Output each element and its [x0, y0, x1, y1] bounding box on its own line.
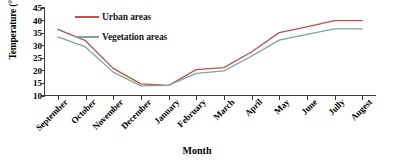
y-tick-label: 25: [18, 54, 42, 62]
y-tick-mark: [41, 70, 45, 71]
temperature-line-chart: Temperature (°C) 1015202530354045 Urban …: [0, 0, 394, 163]
y-tick-mark: [41, 45, 45, 46]
y-tick-mark: [41, 7, 45, 8]
x-tick-label: June: [299, 97, 319, 117]
y-tick-label: 45: [18, 4, 42, 12]
legend-label-vegetation-areas: Vegetation areas: [102, 32, 167, 42]
x-tick-label: March: [211, 97, 236, 122]
legend-item-urban-areas: Urban areas: [75, 7, 215, 27]
y-tick-label: 15: [18, 79, 42, 87]
x-tick-label: Augest: [349, 97, 374, 122]
x-tick-label: May: [272, 97, 291, 116]
y-tick-label: 20: [18, 67, 42, 75]
y-tick-label: 35: [18, 29, 42, 37]
x-tick-label: April: [242, 97, 263, 118]
y-tick-mark: [41, 83, 45, 84]
x-tick-label: February: [176, 97, 208, 129]
x-tick-label: September: [34, 97, 70, 133]
legend-label-urban-areas: Urban areas: [102, 12, 151, 22]
y-tick-label: 30: [18, 42, 42, 50]
y-tick-mark: [41, 33, 45, 34]
legend: Urban areas Vegetation areas: [75, 7, 215, 47]
y-axis-tick-labels: 1015202530354045: [18, 8, 42, 96]
legend-swatch-vegetation-areas: [75, 36, 99, 38]
x-axis-title: Month: [0, 145, 394, 156]
y-tick-label: 40: [18, 17, 42, 25]
x-tick-label: Jully: [326, 97, 346, 117]
legend-item-vegetation-areas: Vegetation areas: [75, 27, 215, 47]
y-tick-mark: [41, 20, 45, 21]
legend-swatch-urban-areas: [75, 16, 99, 18]
y-tick-mark: [41, 58, 45, 59]
x-axis-tick-labels: SeptemberOctoberNovemberDecemberJanuaryF…: [44, 97, 384, 142]
y-tick-label: 10: [18, 92, 42, 100]
